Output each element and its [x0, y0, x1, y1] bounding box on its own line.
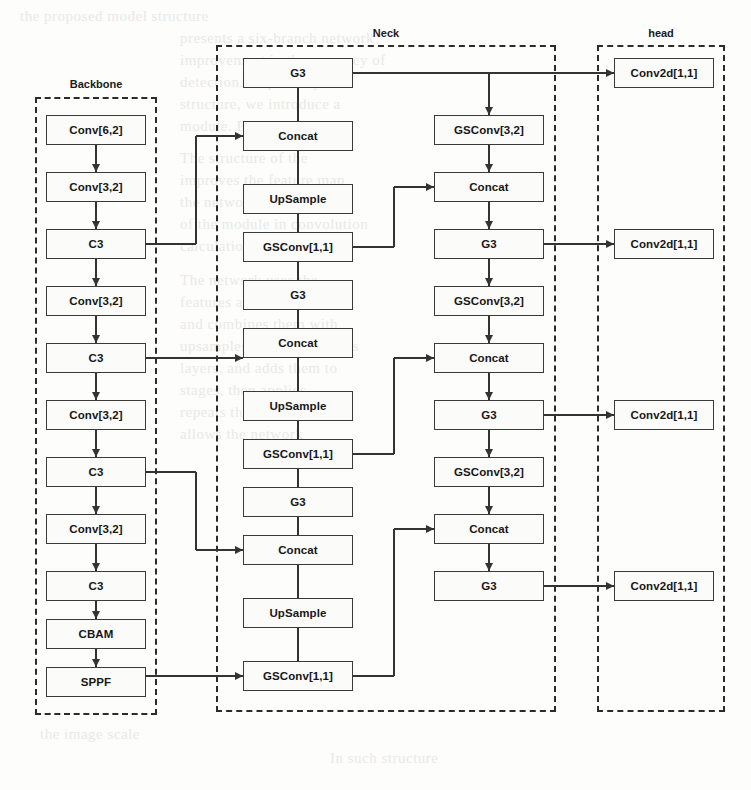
node-bb6[interactable]: Conv[3,2] — [46, 400, 146, 430]
arrowhead-nl1-to-nr1 — [485, 107, 493, 115]
node-bb5[interactable]: C3 — [46, 343, 146, 373]
arrowhead-nl8-to-nr5 — [426, 354, 434, 362]
edge-nl7-to-nl6 — [297, 358, 299, 391]
arrowhead-bb5-to-nl6 — [235, 354, 243, 362]
node-hd1[interactable]: Conv2d[1,1] — [614, 58, 714, 88]
node-nr1[interactable]: GSConv[3,2] — [434, 115, 544, 145]
node-nr8[interactable]: Concat — [434, 514, 544, 544]
edge-nl8-to-nl7 — [297, 421, 299, 439]
edge-nl12-to-nr8 — [353, 675, 394, 677]
edge-nl12-to-nl11 — [297, 628, 299, 661]
arrowhead-bb5-to-bb6 — [92, 392, 100, 400]
node-nl1[interactable]: G3 — [243, 58, 353, 88]
arrowhead-bb10-to-bb11 — [92, 659, 100, 667]
arrowhead-nl4-to-nr2 — [426, 183, 434, 191]
node-nl3[interactable]: UpSample — [243, 184, 353, 214]
edge-nr6-to-hd3 — [544, 414, 614, 416]
edge-bb5-to-nl6 — [146, 357, 243, 359]
node-bb1[interactable]: Conv[6,2] — [46, 115, 146, 145]
node-hd2[interactable]: Conv2d[1,1] — [614, 229, 714, 259]
arrowhead-nr5-to-nr6 — [485, 392, 493, 400]
node-nr2[interactable]: Concat — [434, 172, 544, 202]
node-bb8[interactable]: Conv[3,2] — [46, 514, 146, 544]
arrowhead-bb2-to-bb3 — [92, 221, 100, 229]
node-nr4[interactable]: GSConv[3,2] — [434, 286, 544, 316]
edge-nr3-to-hd2 — [544, 243, 614, 245]
edge-nl9-to-nl8 — [297, 469, 299, 487]
node-nr5[interactable]: Concat — [434, 343, 544, 373]
node-bb3[interactable]: C3 — [46, 229, 146, 259]
arrowhead-bb3-to-nl2 — [235, 132, 243, 140]
arrowhead-nr3-to-hd2 — [606, 240, 614, 248]
arrowhead-nr6-to-hd3 — [606, 411, 614, 419]
edge-nl5-to-nl4 — [297, 262, 299, 280]
arrowhead-nr3-to-nr4 — [485, 278, 493, 286]
node-bb9[interactable]: C3 — [46, 571, 146, 601]
edge-nl12-to-nr8 — [393, 529, 395, 676]
bleedthrough-text: the image scale — [40, 726, 140, 743]
arrowhead-nr9-to-hd4 — [606, 582, 614, 590]
edge-bb3-to-nl2 — [195, 136, 197, 244]
group-label-backbone: Backbone — [35, 78, 157, 90]
arrowhead-bb9-to-bb10 — [92, 611, 100, 619]
node-nr6[interactable]: G3 — [434, 400, 544, 430]
arrowhead-bb6-to-bb7 — [92, 449, 100, 457]
node-nl11[interactable]: UpSample — [243, 598, 353, 628]
arrowhead-nl1-to-hd1 — [606, 69, 614, 77]
node-nl8[interactable]: GSConv[1,1] — [243, 439, 353, 469]
node-bb11[interactable]: SPPF — [46, 667, 146, 697]
arrowhead-bb1-to-bb2 — [92, 164, 100, 172]
edge-nl11-to-nl10 — [297, 565, 299, 598]
arrowhead-nr2-to-nr3 — [485, 221, 493, 229]
group-label-head: head — [597, 27, 725, 39]
edge-nl3-to-nl2 — [297, 151, 299, 184]
edge-nl6-to-nl5 — [297, 310, 299, 328]
arrowhead-nr7-to-nr8 — [485, 506, 493, 514]
node-bb4[interactable]: Conv[3,2] — [46, 286, 146, 316]
node-bb2[interactable]: Conv[3,2] — [46, 172, 146, 202]
node-nl7[interactable]: UpSample — [243, 391, 353, 421]
edge-nl4-to-nr2 — [393, 187, 395, 247]
edge-bb7-to-nl10 — [146, 471, 196, 473]
node-nl4[interactable]: GSConv[1,1] — [243, 232, 353, 262]
bleedthrough-text: In such structure — [330, 750, 438, 767]
edge-nl4-to-nl3 — [297, 214, 299, 232]
node-hd4[interactable]: Conv2d[1,1] — [614, 571, 714, 601]
edge-nl1-to-hd1 — [353, 72, 614, 74]
edge-nl4-to-nr2 — [353, 246, 394, 248]
arrowhead-bb4-to-bb5 — [92, 335, 100, 343]
node-nl12[interactable]: GSConv[1,1] — [243, 661, 353, 691]
arrowhead-bb3-to-bb4 — [92, 278, 100, 286]
node-nl6[interactable]: Concat — [243, 328, 353, 358]
arrowhead-nr1-to-nr2 — [485, 164, 493, 172]
node-nl10[interactable]: Concat — [243, 535, 353, 565]
arrowhead-bb7-to-bb8 — [92, 506, 100, 514]
arrowhead-nl12-to-nr8 — [426, 525, 434, 533]
bleedthrough-text: the proposed model structure — [20, 8, 209, 25]
arrowhead-bb11-to-nl12 — [235, 672, 243, 680]
node-nr7[interactable]: GSConv[3,2] — [434, 457, 544, 487]
group-container-head — [597, 45, 725, 712]
edge-nl2-to-nl1 — [297, 88, 299, 121]
node-nl9[interactable]: G3 — [243, 487, 353, 517]
arrowhead-nr6-to-nr7 — [485, 449, 493, 457]
edge-nl10-to-nl9 — [297, 517, 299, 535]
node-nl2[interactable]: Concat — [243, 121, 353, 151]
edge-bb3-to-nl2 — [146, 243, 196, 245]
arrowhead-bb7-to-nl10 — [235, 546, 243, 554]
network-architecture-diagram: the proposed model structurepresents a s… — [0, 0, 751, 790]
arrowhead-nr8-to-nr9 — [485, 563, 493, 571]
group-label-neck: Neck — [356, 27, 416, 39]
edge-nl8-to-nr5 — [353, 453, 394, 455]
node-bb7[interactable]: C3 — [46, 457, 146, 487]
edge-nl8-to-nr5 — [393, 358, 395, 454]
node-nr9[interactable]: G3 — [434, 571, 544, 601]
node-hd3[interactable]: Conv2d[1,1] — [614, 400, 714, 430]
edge-bb7-to-nl10 — [195, 472, 197, 550]
arrowhead-bb8-to-bb9 — [92, 563, 100, 571]
node-nl5[interactable]: G3 — [243, 280, 353, 310]
node-nr3[interactable]: G3 — [434, 229, 544, 259]
edge-nr9-to-hd4 — [544, 585, 614, 587]
node-bb10[interactable]: CBAM — [46, 619, 146, 649]
arrowhead-nr4-to-nr5 — [485, 335, 493, 343]
